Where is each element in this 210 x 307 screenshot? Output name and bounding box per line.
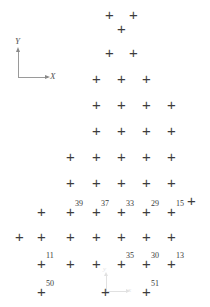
secondary-x-axis-label: x [128,286,131,294]
plus-marker-icon: + [167,229,176,244]
plus-marker-icon: + [92,71,101,86]
plus-marker-icon: + [142,71,151,86]
plus-marker-icon: + [167,123,176,138]
plus-marker-icon: + [142,229,151,244]
plus-marker-icon: + [167,204,176,219]
plus-marker-icon: + [117,175,126,190]
secondary-y-axis-label: y [103,265,106,273]
plus-marker-icon: + [37,284,46,299]
y-axis-line [18,50,19,78]
plus-marker-icon: + [117,71,126,86]
plus-marker-icon: + [142,284,151,299]
plus-marker-icon: + [142,204,151,219]
plus-marker-icon: + [117,123,126,138]
plus-marker-icon: + [92,97,101,112]
plus-marker-icon: + [129,7,138,22]
plus-marker-icon: + [92,149,101,164]
plus-marker-icon: + [92,256,101,271]
plus-marker-icon: + [117,229,126,244]
plus-marker-icon: + [66,149,75,164]
plus-marker-icon: + [92,204,101,219]
plus-marker-icon: + [117,21,126,36]
data-point-label: 50 [46,280,54,288]
plus-marker-icon: + [92,123,101,138]
plus-marker-icon: + [167,97,176,112]
main-axis-indicator: Y X [18,44,58,78]
data-point-label: 30 [151,252,159,260]
y-axis-label: Y [15,36,20,46]
plus-marker-icon: + [37,256,46,271]
plus-marker-icon: + [142,175,151,190]
plus-marker-icon: + [142,256,151,271]
plus-marker-icon: + [105,45,114,60]
data-point-label: 11 [46,252,54,260]
plus-marker-icon: + [142,123,151,138]
y-axis-arrow-icon [16,47,20,52]
plus-marker-icon: + [66,229,75,244]
plus-marker-icon: + [142,97,151,112]
plus-marker-icon: + [15,229,24,244]
data-point-label: 13 [176,252,184,260]
x-axis-line [18,77,48,78]
plus-marker-icon: + [117,149,126,164]
data-point-label: 33 [126,200,134,208]
plus-marker-icon: + [117,256,126,271]
plus-marker-icon: + [101,284,110,299]
x-axis-label: X [50,71,56,81]
plus-marker-icon: + [129,45,138,60]
data-point-label: 35 [126,252,134,260]
plus-marker-icon: + [92,229,101,244]
plus-marker-icon: + [66,175,75,190]
figure-canvas: Y X y x ++++++++++++++++++++++++++++39+3… [0,0,210,307]
data-point-label: 15 [176,200,184,208]
plus-marker-icon: + [117,204,126,219]
plus-marker-icon: + [66,256,75,271]
plus-marker-icon: + [105,7,114,22]
data-point-label: 37 [101,200,109,208]
plus-marker-icon: + [37,229,46,244]
data-point-label: 39 [75,200,83,208]
plus-marker-icon: + [187,193,196,208]
plus-marker-icon: + [37,204,46,219]
data-point-label: 29 [151,200,159,208]
plus-marker-icon: + [167,256,176,271]
plus-marker-icon: + [66,204,75,219]
plus-marker-icon: + [142,149,151,164]
plus-marker-icon: + [92,175,101,190]
plus-marker-icon: + [167,149,176,164]
plus-marker-icon: + [167,175,176,190]
plus-marker-icon: + [117,97,126,112]
data-point-label: 51 [151,280,159,288]
